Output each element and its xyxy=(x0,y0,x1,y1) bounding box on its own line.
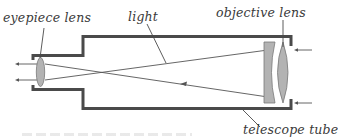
eyepiece-lens xyxy=(36,58,44,87)
eyepiece-lens-label: eyepiece lens xyxy=(3,12,91,25)
telescope-tube xyxy=(33,37,291,109)
objective-lens xyxy=(264,42,288,103)
faint-caption-remnant xyxy=(22,133,192,136)
light-label: light xyxy=(128,11,158,24)
telescope-tube-label: telescope tube xyxy=(243,124,338,137)
objective-lens-label: objective lens xyxy=(216,7,306,20)
